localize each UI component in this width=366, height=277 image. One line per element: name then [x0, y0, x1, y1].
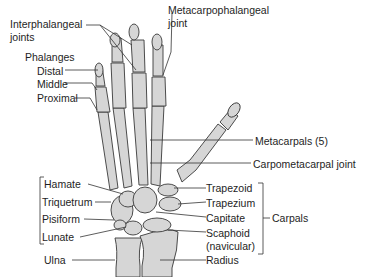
leader-lunate [80, 227, 126, 237]
hand-bones-diagram: Interphalangeal joints Metacarpophalange… [0, 0, 366, 277]
label-radius: Radius [206, 254, 239, 266]
middle-proximal-phalanx [132, 73, 147, 108]
label-proximal: Proximal [37, 92, 78, 104]
lunate-bone [124, 221, 142, 235]
metacarpal-2 [151, 106, 164, 186]
leader-pisiform [84, 219, 114, 220]
label-trapezoid: Trapezoid [206, 182, 252, 194]
trapezium-bone [159, 197, 181, 211]
trapezoid-bone [158, 184, 178, 196]
label-trapezium: Trapezium [206, 197, 255, 209]
label-ulna: Ulna [44, 254, 66, 266]
little-proximal-phalanx [95, 87, 110, 112]
metacarpal-3 [133, 108, 148, 185]
capitate-bone [133, 187, 157, 213]
label-interphalangeal-joints-2: joints [10, 31, 35, 43]
radius-bone [140, 230, 178, 277]
label-scaphoid: Scaphoid [206, 227, 250, 239]
label-metacarpophalangeal: Metacarpophalangeal [168, 4, 269, 16]
label-metacarpals: Metacarpals (5) [255, 135, 328, 147]
label-scaphoid-navicular: (navicular) [206, 240, 255, 252]
middle-middle-phalanx [131, 40, 145, 72]
label-hamate: Hamate [44, 178, 81, 190]
label-interphalangeal-joints: Interphalangeal [10, 18, 82, 30]
ulna-bone [115, 238, 142, 277]
leader-trapezium [178, 202, 206, 204]
bracket-right-carpals [258, 183, 263, 254]
label-carpals: Carpals [272, 212, 308, 224]
label-phalanges: Phalanges [25, 51, 75, 63]
leader-interphalangeal-1 [86, 25, 132, 45]
middle-distal-phalanx [129, 24, 139, 40]
leader-proximal [75, 98, 97, 110]
leader-capitate [156, 212, 206, 217]
scaphoid-bone [143, 218, 171, 232]
label-distal: Distal [37, 65, 63, 77]
label-lunate: Lunate [42, 231, 74, 243]
label-metacarpophalangeal-2: joint [168, 17, 187, 29]
label-pisiform: Pisiform [42, 213, 80, 225]
label-middle: Middle [37, 78, 68, 90]
ring-proximal-phalanx [111, 63, 126, 108]
metacarpal-1 [177, 124, 226, 182]
leader-middle [65, 83, 97, 90]
label-triquetrum: Triquetrum [42, 196, 92, 208]
index-proximal-phalanx [152, 77, 166, 106]
index-distal-phalanx [152, 34, 162, 50]
label-carpometacarpal-joint: Carpometacarpal joint [253, 158, 356, 170]
label-capitate: Capitate [206, 212, 245, 224]
